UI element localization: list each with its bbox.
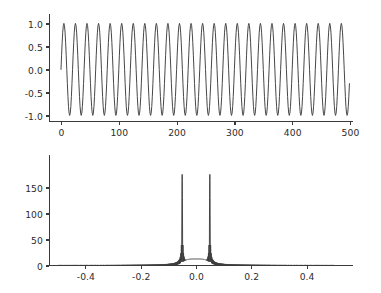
spectrum-panel: 150 100 50 0 -0.4 -0.2 0.0 0.2 0.4	[0, 148, 381, 293]
spectrum-line	[0, 148, 381, 293]
matplotlib-figure: 1.0 0.5 0.0 -0.5 -1.0 0 100 200 300 400 …	[0, 0, 381, 293]
signal-line	[0, 0, 381, 148]
signal-panel: 1.0 0.5 0.0 -0.5 -1.0 0 100 200 300 400 …	[0, 0, 381, 148]
